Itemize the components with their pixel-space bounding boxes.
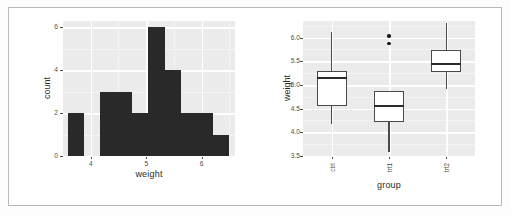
- histogram-y-axis-label: count: [42, 58, 52, 118]
- boxplot-x-tickmark: [389, 157, 390, 159]
- figure-frame: count weight 0246456 weight group 3.54.0…: [8, 7, 502, 206]
- histogram-x-tickmark: [91, 157, 92, 159]
- boxplot-y-tickmark: [300, 156, 302, 157]
- histogram-figure: count weight 0246456: [9, 8, 256, 207]
- boxplot-figure: weight group 3.54.04.55.05.56.0ctrltrt1t…: [256, 8, 501, 207]
- histogram-y-tickmark: [60, 70, 62, 71]
- histogram-y-tick-4: 4: [54, 66, 58, 73]
- boxplot-x-tickmark: [332, 157, 333, 159]
- boxplot-outlier-trt1: [387, 34, 390, 37]
- histogram-y-tick-2: 2: [54, 109, 58, 116]
- boxplot-y-tickmark: [300, 38, 302, 39]
- histogram-bar: [132, 113, 148, 156]
- histogram-x-tick-5: 5: [136, 160, 156, 167]
- screenshot-root: count weight 0246456 weight group 3.54.0…: [0, 0, 511, 215]
- histogram-panel: [63, 21, 235, 156]
- boxplot-y-tick-4.5: 4.5: [283, 105, 300, 112]
- histogram-bar: [68, 113, 84, 156]
- boxplot-y-tickmark: [300, 85, 302, 86]
- boxplot-y-tick-5.5: 5.5: [283, 57, 300, 64]
- histogram-x-tickmark: [202, 157, 203, 159]
- boxplot-y-tick-3.5: 3.5: [283, 152, 300, 159]
- histogram-y-tickmark: [60, 27, 62, 28]
- histogram-x-tickmark: [146, 157, 147, 159]
- boxplot-x-tickmark: [446, 157, 447, 159]
- boxplot-y-tickmark: [300, 61, 302, 62]
- boxplot-y-tickmark: [300, 132, 302, 133]
- histogram-bar: [165, 70, 181, 156]
- histogram-y-tickmark: [60, 156, 62, 157]
- boxplot-median-trt1: [374, 105, 404, 107]
- boxplot-panel: [303, 21, 475, 156]
- histogram-bar: [148, 27, 164, 156]
- histogram-bar: [116, 92, 132, 156]
- boxplot-x-axis-label: group: [303, 180, 475, 190]
- histogram-gridline-x-4: [91, 21, 93, 156]
- boxplot-median-trt2: [431, 63, 461, 65]
- histogram-gridline-minor: [229, 21, 230, 156]
- histogram-bar: [181, 113, 197, 156]
- boxplot-median-ctrl: [317, 77, 347, 79]
- boxplot-y-tick-6.0: 6.0: [283, 34, 300, 41]
- histogram-x-axis-label: weight: [63, 169, 235, 179]
- histogram-bar: [100, 92, 116, 156]
- boxplot-x-tick-trt1: trt1: [386, 159, 393, 177]
- boxplot-box-trt2: [431, 50, 461, 72]
- boxplot-x-tick-ctrl: ctrl: [328, 159, 335, 177]
- boxplot-y-tickmark: [300, 109, 302, 110]
- boxplot-x-tick-trt2: trt2: [443, 159, 450, 177]
- histogram-x-tick-4: 4: [81, 160, 101, 167]
- boxplot-y-tick-5.0: 5.0: [283, 81, 300, 88]
- histogram-x-tick-6: 6: [192, 160, 212, 167]
- histogram-y-tick-0: 0: [54, 152, 58, 159]
- histogram-y-tick-6: 6: [54, 23, 58, 30]
- boxplot-y-tick-4.0: 4.0: [283, 128, 300, 135]
- histogram-bar: [213, 135, 229, 156]
- histogram-bar: [197, 113, 213, 156]
- histogram-y-tickmark: [60, 113, 62, 114]
